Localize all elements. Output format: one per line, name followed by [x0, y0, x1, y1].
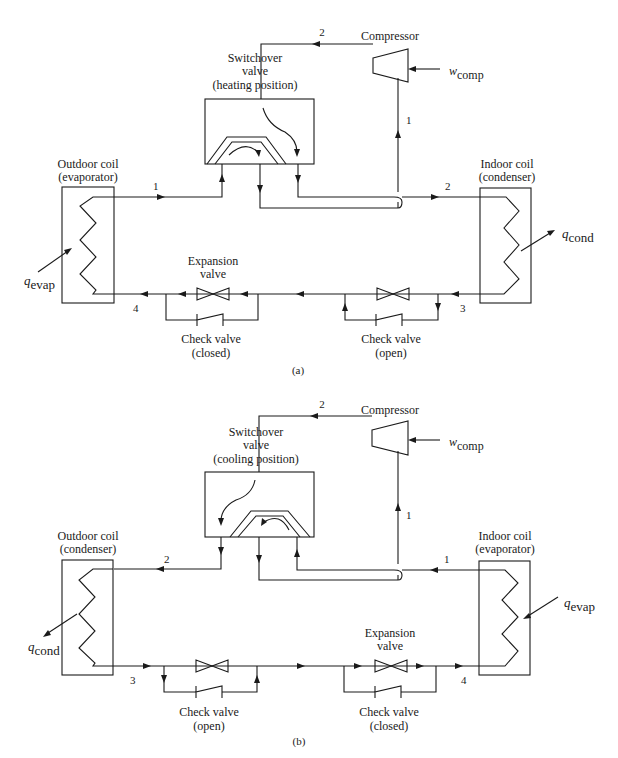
svg-text:(open): (open): [375, 346, 406, 360]
arrow-right-icon: [416, 663, 424, 669]
state-label-3: 3: [130, 674, 136, 686]
arrow-left-icon: [451, 291, 459, 297]
state-label-2: 2: [445, 180, 451, 192]
switchover-valve-b: Switchover valve (cooling position): [205, 425, 314, 537]
compressor-label: Compressor: [361, 29, 419, 43]
check-valve-open-a: Check valve (open): [342, 294, 441, 360]
heat-cond-symbol: qcond: [562, 226, 594, 245]
state-label-3: 3: [460, 302, 466, 314]
heat-evap-symbol: qevap: [24, 273, 55, 292]
arrow-right-icon: [143, 663, 151, 669]
arrow-right-icon: [431, 194, 439, 200]
svg-text:Check valve: Check valve: [359, 705, 419, 719]
arrow-left-icon: [296, 291, 304, 297]
arrow-down-icon: [256, 555, 262, 563]
arrow-up-icon: [395, 503, 401, 511]
outdoor-coil-b: Outdoor coil (condenser) qcond: [28, 529, 119, 675]
svg-text:Check valve: Check valve: [181, 332, 241, 346]
arrow-left-icon: [312, 41, 320, 47]
work-symbol: wcomp: [449, 435, 484, 453]
check-valve-open-b: Check valve (open): [161, 666, 260, 733]
arrow-right-icon: [157, 194, 165, 200]
arrow-up-icon: [294, 549, 300, 557]
arrow-up-icon: [219, 174, 225, 182]
check-valve-closed-a: Check valve (closed): [166, 294, 258, 360]
state-label-4: 4: [133, 302, 139, 314]
heat-cond-symbol: qcond: [28, 639, 60, 658]
arrow-left-icon: [240, 291, 248, 297]
svg-text:(condenser): (condenser): [479, 170, 536, 184]
switchover-valve-a: Switchover valve (heating position): [205, 51, 314, 164]
svg-text:(open): (open): [193, 719, 224, 733]
indoor-coil-a: Indoor coil (condenser) qcond: [479, 157, 595, 303]
state-label-1: 1: [444, 553, 450, 565]
svg-text:Check valve: Check valve: [361, 332, 421, 346]
arrow-left-icon: [408, 66, 416, 72]
svg-text:valve: valve: [242, 64, 268, 78]
arrow-right-icon: [297, 663, 305, 669]
arrow-down-icon: [218, 547, 224, 555]
state-label-2: 2: [319, 398, 325, 410]
svg-text:valve: valve: [243, 438, 269, 452]
arrow-left-icon: [430, 567, 438, 573]
svg-text:Outdoor coil: Outdoor coil: [58, 157, 120, 171]
panel-b-cooling: Compressor wcomp 2 1 Switchover valve (c…: [28, 398, 595, 748]
arrow-up-icon: [395, 130, 401, 138]
svg-text:(closed): (closed): [370, 719, 409, 733]
svg-text:(condenser): (condenser): [60, 542, 117, 556]
arrow-down-icon: [257, 185, 263, 193]
svg-text:(cooling position): (cooling position): [213, 452, 299, 466]
indoor-coil-b: Indoor coil (evaporator) qevap: [475, 529, 595, 675]
heat-evap-symbol: qevap: [564, 595, 595, 614]
compressor-a: Compressor wcomp: [361, 29, 484, 82]
svg-text:Indoor coil: Indoor coil: [479, 529, 533, 543]
state-label-4: 4: [461, 674, 467, 686]
arrow-down-icon: [295, 175, 301, 183]
svg-text:(evaporator): (evaporator): [475, 542, 534, 556]
panel-a-heating: Compressor wcomp 2 1 Switchover valve (h…: [24, 26, 594, 377]
caption-b: (b): [293, 735, 306, 748]
svg-text:Check valve: Check valve: [179, 705, 239, 719]
expansion-valve-a: Expansion valve: [188, 254, 239, 300]
check-valve-closed-b: Check valve (closed): [344, 666, 436, 733]
line-state-2-right: [298, 164, 394, 197]
work-symbol: wcomp: [449, 64, 484, 82]
expansion-valve-b: Expansion valve: [365, 626, 416, 672]
arrow-left-icon: [140, 291, 148, 297]
svg-text:(closed): (closed): [192, 346, 231, 360]
outdoor-coil-a: Outdoor coil (evaporator) qevap: [24, 157, 119, 303]
arrow-left-icon: [178, 291, 186, 297]
line-state-1-right: [297, 537, 394, 570]
compressor-b: Compressor wcomp: [361, 403, 484, 455]
svg-text:Indoor coil: Indoor coil: [481, 157, 535, 171]
state-label-2: 2: [319, 26, 325, 38]
state-label-1: 1: [406, 114, 412, 126]
state-label-2: 2: [164, 553, 170, 565]
svg-text:valve: valve: [200, 267, 226, 281]
line-suction: [260, 164, 398, 208]
svg-text:Compressor: Compressor: [361, 403, 419, 417]
svg-text:valve: valve: [377, 639, 403, 653]
svg-text:Outdoor coil: Outdoor coil: [58, 529, 120, 543]
arrow-down-icon: [161, 675, 167, 683]
caption-a: (a): [292, 364, 305, 377]
svg-text:Expansion: Expansion: [365, 626, 416, 640]
svg-text:(heating position): (heating position): [213, 78, 298, 92]
svg-text:Expansion: Expansion: [188, 254, 239, 268]
arrow-right-icon: [354, 663, 362, 669]
arrow-right-icon: [455, 663, 463, 669]
state-label-1: 1: [406, 509, 412, 521]
arrow-down-icon: [435, 303, 441, 311]
arrow-left-icon: [156, 566, 164, 572]
heat-pump-diagram: Compressor wcomp 2 1 Switchover valve (h…: [0, 0, 618, 758]
arrow-left-icon: [408, 437, 416, 443]
line-suction: [259, 537, 398, 580]
arrow-up-icon: [342, 303, 348, 311]
arrow-left-icon: [310, 413, 318, 419]
svg-text:Switchover: Switchover: [228, 51, 283, 65]
line-state-1-left: [114, 164, 222, 197]
state-label-1: 1: [153, 180, 159, 192]
arrow-up-icon: [254, 675, 260, 683]
svg-text:(evaporator): (evaporator): [58, 170, 117, 184]
svg-text:Switchover: Switchover: [229, 425, 284, 439]
